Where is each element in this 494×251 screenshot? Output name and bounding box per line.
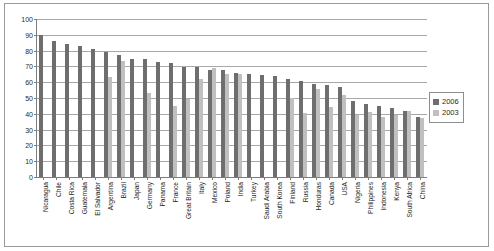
bar-2003 bbox=[303, 113, 307, 177]
y-tick-label-0: 0 bbox=[29, 174, 33, 181]
x-label-slot: Japan bbox=[127, 179, 140, 243]
y-tick-label-70: 70 bbox=[25, 63, 33, 70]
plot-area: 0102030405060708090100 bbox=[36, 19, 427, 178]
bar-2003 bbox=[173, 106, 177, 177]
x-tick-mark bbox=[264, 177, 265, 180]
x-tick-mark bbox=[186, 177, 187, 180]
y-tick-label-40: 40 bbox=[25, 110, 33, 117]
bar-group bbox=[193, 19, 206, 177]
y-tick-label-90: 90 bbox=[25, 31, 33, 38]
bar-group bbox=[297, 19, 310, 177]
x-tick-label: China bbox=[420, 182, 427, 199]
bar-group bbox=[362, 19, 375, 177]
x-label-slot: South Africa bbox=[400, 179, 413, 243]
bar-group bbox=[388, 19, 401, 177]
x-label-slot: Costa Rica bbox=[62, 179, 75, 243]
x-tick-mark bbox=[160, 177, 161, 180]
x-tick-mark bbox=[277, 177, 278, 180]
bar-2006 bbox=[65, 44, 69, 177]
bar-2006 bbox=[156, 62, 160, 177]
x-label-slot: Mexico bbox=[205, 179, 218, 243]
x-label-slot: Brazil bbox=[114, 179, 127, 243]
x-tick-mark bbox=[147, 177, 148, 180]
bar-group bbox=[336, 19, 349, 177]
x-label-slot: Finland bbox=[283, 179, 296, 243]
x-tick-mark bbox=[342, 177, 343, 180]
bar-2003 bbox=[394, 115, 398, 177]
bar-2003 bbox=[238, 74, 242, 177]
x-tick-mark bbox=[290, 177, 291, 180]
x-label-slot: Saudi Arabia bbox=[257, 179, 270, 243]
x-tick-mark bbox=[69, 177, 70, 180]
bar-2003 bbox=[121, 61, 125, 177]
bar-group bbox=[63, 19, 76, 177]
x-tick-mark bbox=[368, 177, 369, 180]
bar-2006 bbox=[260, 75, 264, 177]
x-label-slot: Indonesia bbox=[374, 179, 387, 243]
x-tick-mark bbox=[316, 177, 317, 180]
legend-swatch-2006 bbox=[433, 99, 439, 105]
bar-group bbox=[206, 19, 219, 177]
x-tick-mark bbox=[329, 177, 330, 180]
x-tick-mark bbox=[251, 177, 252, 180]
bar-group bbox=[310, 19, 323, 177]
x-tick-mark bbox=[82, 177, 83, 180]
x-label-slot: USA bbox=[335, 179, 348, 243]
bar-2003 bbox=[212, 68, 216, 177]
bar-2003 bbox=[147, 93, 151, 177]
bar-2006 bbox=[247, 74, 251, 177]
bar-group bbox=[50, 19, 63, 177]
x-tick-mark bbox=[381, 177, 382, 180]
bar-2003 bbox=[225, 74, 229, 177]
bar-group bbox=[37, 19, 50, 177]
x-tick-mark bbox=[303, 177, 304, 180]
x-tick-mark bbox=[238, 177, 239, 180]
bar-group bbox=[245, 19, 258, 177]
x-tick-mark bbox=[134, 177, 135, 180]
x-tick-mark bbox=[108, 177, 109, 180]
chart-frame: 0102030405060708090100 NicaraguaChileCos… bbox=[4, 3, 489, 247]
bar-2003 bbox=[407, 111, 411, 177]
x-label-slot: Russia bbox=[296, 179, 309, 243]
x-label-slot: India bbox=[231, 179, 244, 243]
x-label-slot: Italy bbox=[192, 179, 205, 243]
bar-2003 bbox=[199, 79, 203, 177]
y-tick-label-10: 10 bbox=[25, 158, 33, 165]
bar-2003 bbox=[329, 107, 333, 177]
y-tick-label-80: 80 bbox=[25, 47, 33, 54]
y-tick-label-60: 60 bbox=[25, 79, 33, 86]
bar-group bbox=[102, 19, 115, 177]
x-label-slot: Chile bbox=[49, 179, 62, 243]
bar-2006 bbox=[52, 41, 56, 177]
bar-group bbox=[115, 19, 128, 177]
legend-item-2003: 2003 bbox=[433, 108, 459, 118]
y-tick-label-50: 50 bbox=[25, 95, 33, 102]
y-tick-label-100: 100 bbox=[21, 16, 33, 23]
legend-swatch-2003 bbox=[433, 110, 439, 116]
bar-2006 bbox=[78, 46, 82, 177]
x-label-slot: Nicaragua bbox=[36, 179, 49, 243]
bar-2003 bbox=[316, 89, 320, 177]
legend-label-2006: 2006 bbox=[442, 98, 459, 106]
bar-group bbox=[349, 19, 362, 177]
bar-group bbox=[401, 19, 414, 177]
bar-series-container bbox=[37, 19, 427, 177]
x-tick-mark bbox=[212, 177, 213, 180]
x-tick-mark bbox=[407, 177, 408, 180]
x-label-slot: Guatemala bbox=[75, 179, 88, 243]
bar-2003 bbox=[186, 99, 190, 177]
bar-2003 bbox=[381, 117, 385, 177]
bar-2003 bbox=[355, 115, 359, 177]
bar-2006 bbox=[130, 59, 134, 178]
bar-2006 bbox=[91, 49, 95, 177]
bar-group bbox=[128, 19, 141, 177]
x-tick-mark bbox=[173, 177, 174, 180]
x-label-slot: South Korea bbox=[270, 179, 283, 243]
x-label-slot: Great Britain bbox=[179, 179, 192, 243]
y-tick-mark-0 bbox=[34, 177, 37, 178]
x-axis-labels: NicaraguaChileCosta RicaGuatemalaEl Salv… bbox=[36, 179, 426, 245]
bar-group bbox=[154, 19, 167, 177]
bar-group bbox=[89, 19, 102, 177]
x-tick-mark bbox=[121, 177, 122, 180]
x-tick-mark bbox=[95, 177, 96, 180]
